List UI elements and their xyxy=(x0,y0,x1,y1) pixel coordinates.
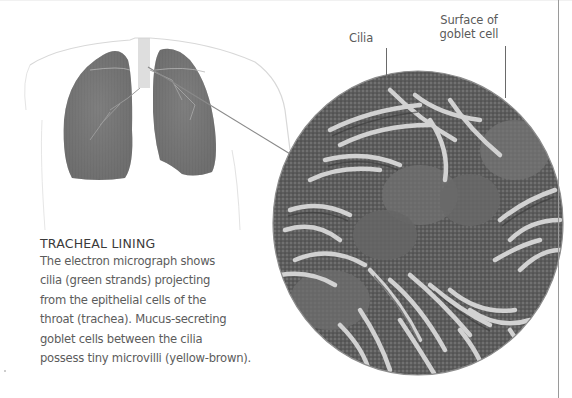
caption-title: TRACHEAL LINING xyxy=(40,236,302,252)
goblet-leader-line xyxy=(505,46,506,98)
caption-line: from the epithelial cells of the xyxy=(40,291,302,310)
figure-caption: TRACHEAL LINING The electron micrograph … xyxy=(40,236,302,368)
figure-page: Cilia Surface of goblet cell TRACHEAL LI… xyxy=(0,0,572,398)
cilia-label: Cilia xyxy=(349,31,373,45)
goblet-label-line1: Surface of xyxy=(432,13,506,27)
caption-line: throat (trachea). Mucus-secreting xyxy=(40,310,302,329)
right-margin-rule xyxy=(558,0,559,398)
caption-line: The electron micrograph shows xyxy=(40,252,302,271)
cilia-micrograph-image xyxy=(270,70,570,380)
margin-dot xyxy=(4,370,6,372)
caption-line: possess tiny microvilli (yellow-brown). xyxy=(40,349,302,368)
goblet-cell-label: Surface of goblet cell xyxy=(432,13,506,41)
goblet-label-line2: goblet cell xyxy=(432,27,506,41)
caption-line: cilia (green strands) projecting xyxy=(40,271,302,290)
caption-line: goblet cells between the cilia xyxy=(40,330,302,349)
torso-lungs-illustration xyxy=(0,0,300,230)
cilia-leader-line xyxy=(386,48,387,78)
